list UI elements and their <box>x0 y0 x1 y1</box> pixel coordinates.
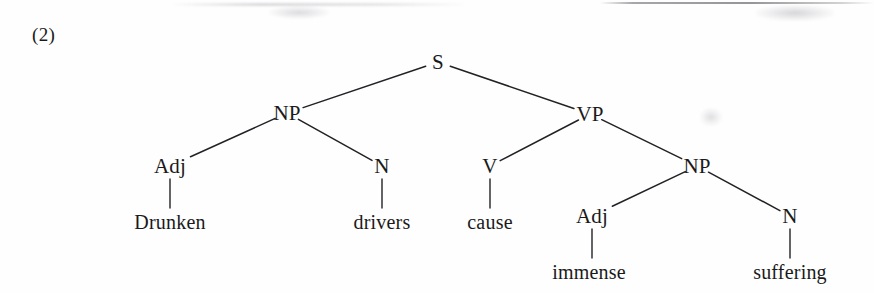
tree-terminal-w-drunken: Drunken <box>134 212 205 232</box>
tree-node-adj1: Adj <box>154 156 186 177</box>
branch-line-group <box>191 66 780 210</box>
tree-node-n2: N <box>782 206 797 227</box>
tree-terminal-w-immense: immense <box>552 262 626 282</box>
tree-node-n1: N <box>374 156 389 177</box>
branch-s-to-np1 <box>303 66 426 107</box>
tree-node-v: V <box>482 156 497 177</box>
branch-np2-to-adj2 <box>612 172 685 207</box>
branch-np2-to-n2 <box>709 172 780 210</box>
tree-node-adj2: Adj <box>576 206 608 227</box>
branch-vp-to-np2 <box>602 120 682 159</box>
branch-np1-to-n1 <box>298 119 372 160</box>
branch-vp-to-v <box>500 120 578 161</box>
tree-node-s: S <box>432 52 444 73</box>
tree-node-vp: VP <box>576 104 603 125</box>
branch-np1-to-adj1 <box>191 118 276 156</box>
tree-node-np2: NP <box>683 156 710 177</box>
tree-branch-lines <box>0 0 874 293</box>
tree-terminal-w-cause: cause <box>467 212 512 232</box>
figure-canvas: (2) SNPVPAdjNVNPAdjN Drunkendriverscause… <box>0 0 874 293</box>
tree-terminal-w-drivers: drivers <box>354 212 411 232</box>
tree-terminal-w-suffering: suffering <box>753 262 827 282</box>
tree-node-np1: NP <box>273 103 300 124</box>
branch-s-to-vp <box>450 66 574 108</box>
